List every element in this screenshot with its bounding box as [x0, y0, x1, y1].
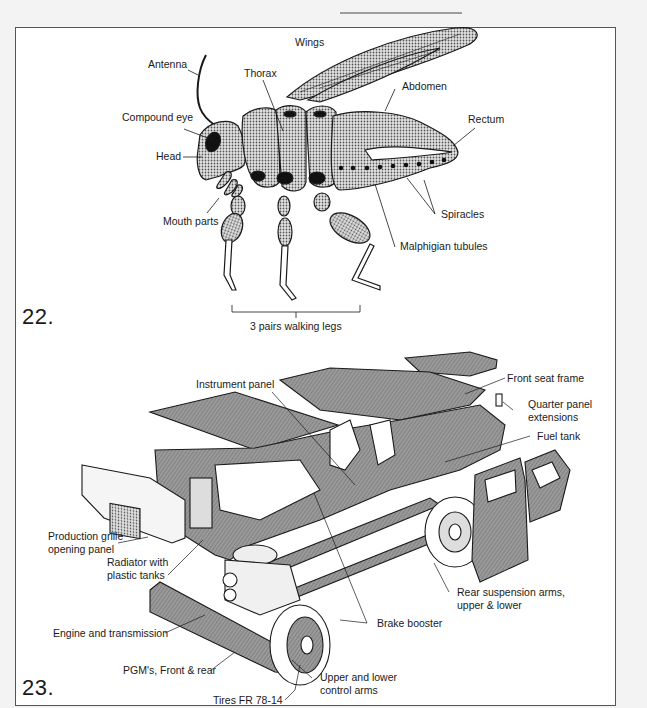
label-walking-legs: 3 pairs walking legs — [250, 320, 342, 333]
legs-shape — [217, 193, 380, 300]
label-thorax: Thorax — [244, 67, 277, 80]
front-door-shape — [525, 450, 570, 522]
label-antenna: Antenna — [148, 58, 187, 71]
insect-diagram — [197, 28, 477, 300]
illustrations — [0, 0, 647, 708]
label-tires: Tires FR 78-14 — [213, 694, 283, 707]
antenna-shape — [198, 55, 216, 126]
label-pgm: PGM's, Front & rear — [123, 664, 216, 677]
label-rear-suspension-2: upper & lower — [457, 599, 522, 612]
label-mouth-parts: Mouth parts — [163, 215, 218, 228]
label-front-seat-frame: Front seat frame — [507, 372, 584, 385]
label-head: Head — [156, 150, 181, 163]
label-fuel-tank: Fuel tank — [537, 430, 580, 443]
label-quarter-panel-1: Quarter panel — [528, 398, 592, 411]
figure-number-23: 23. — [22, 675, 54, 701]
label-radiator-1: Radiator with — [107, 556, 168, 569]
label-control-arms-1: Upper and lower — [320, 671, 397, 684]
label-radiator-2: plastic tanks — [107, 569, 165, 582]
label-rear-suspension-1: Rear suspension arms, — [457, 586, 565, 599]
label-brake-booster: Brake booster — [377, 617, 442, 630]
label-instrument-panel: Instrument panel — [196, 378, 274, 391]
label-rectum: Rectum — [468, 113, 504, 126]
figure-number-22: 22. — [22, 304, 54, 330]
label-engine: Engine and transmission — [53, 627, 168, 640]
label-quarter-panel-2: extensions — [528, 411, 578, 424]
label-grille-2: opening panel — [48, 543, 114, 556]
label-malphigian-tubules: Malphigian tubules — [400, 240, 488, 253]
label-wings: Wings — [295, 36, 324, 49]
label-abdomen: Abdomen — [402, 80, 447, 93]
label-control-arms-2: control arms — [320, 684, 378, 697]
head-shape — [197, 121, 246, 180]
label-compound-eye: Compound eye — [122, 111, 193, 124]
label-spiracles: Spiracles — [441, 208, 484, 221]
label-grille-1: Production grille — [48, 530, 123, 543]
